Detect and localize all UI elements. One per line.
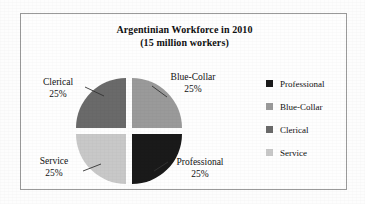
legend-item-professional[interactable]: Professional [266, 72, 348, 95]
figure-frame: Argentinian Workforce in 2010 (15 millio… [20, 13, 347, 190]
slice-label-service: Service 25% [25, 156, 83, 179]
legend-swatch-professional [266, 80, 273, 87]
slice-label-clerical-value: 25% [29, 89, 87, 101]
pie-slice-service[interactable] [76, 134, 126, 184]
slice-label-blue-collar-name: Blue-Collar [155, 72, 231, 84]
legend-swatch-blue-collar [266, 103, 273, 110]
legend-item-service[interactable]: Service [266, 141, 348, 164]
legend-label-clerical: Clerical [280, 125, 309, 135]
chart-legend: Professional Blue-Collar Clerical Servic… [266, 72, 348, 164]
slice-label-professional: Professional 25% [157, 157, 243, 180]
slice-label-clerical: Clerical 25% [29, 77, 87, 100]
slice-label-service-name: Service [25, 156, 83, 168]
legend-label-blue-collar: Blue-Collar [280, 102, 323, 112]
pie-chart-area: Clerical 25% Blue-Collar 25% Service 25%… [21, 14, 281, 191]
slice-label-professional-value: 25% [157, 169, 243, 181]
legend-swatch-clerical [266, 126, 273, 133]
legend-label-service: Service [280, 148, 307, 158]
legend-label-professional: Professional [280, 79, 325, 89]
slice-label-clerical-name: Clerical [29, 77, 87, 89]
slice-label-professional-name: Professional [157, 157, 243, 169]
scanned-page: Argentinian Workforce in 2010 (15 millio… [0, 0, 365, 204]
legend-swatch-service [266, 149, 273, 156]
legend-item-clerical[interactable]: Clerical [266, 118, 348, 141]
slice-label-blue-collar-value: 25% [155, 84, 231, 96]
slice-label-blue-collar: Blue-Collar 25% [155, 72, 231, 95]
slice-label-service-value: 25% [25, 168, 83, 180]
legend-item-blue-collar[interactable]: Blue-Collar [266, 95, 348, 118]
